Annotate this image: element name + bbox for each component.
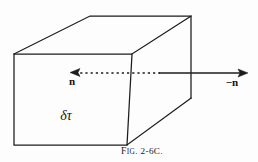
caption-number: . 2-6C. <box>135 146 163 156</box>
figure-background <box>0 0 258 162</box>
figure-container: n −n δτ FIG. 2-6C. <box>0 0 258 162</box>
inward-normal-label: n <box>69 75 75 87</box>
outward-normal-label: −n <box>226 76 238 88</box>
volume-element-label: δτ <box>60 108 73 123</box>
figure-caption: FIG. 2-6C. <box>121 145 163 156</box>
parallelepiped-diagram: n −n δτ FIG. 2-6C. <box>0 0 258 162</box>
caption-smallcaps: IG <box>127 147 136 156</box>
